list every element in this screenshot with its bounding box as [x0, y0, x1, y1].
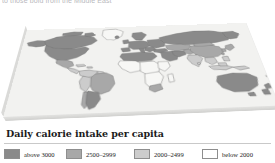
map-stage: [0, 8, 275, 126]
map-legend: above 3000 2500–2999 2000–2499 below 200…: [4, 147, 275, 161]
legend-label-2000-2499: 2000–2499: [154, 151, 184, 158]
legend-swatch-2500-2999: [66, 149, 82, 159]
legend-item-below-2000: below 2000: [202, 147, 266, 161]
choropleth-world-map: [3, 23, 275, 117]
region-borneo: [218, 62, 228, 66]
legend-swatch-below-2000: [202, 149, 218, 159]
page-bleed-text: to those bold from the Middle East: [2, 0, 152, 5]
legend-swatch-2000-2499: [134, 149, 150, 159]
map-face: [3, 23, 275, 117]
legend-label-2500-2999: 2500–2999: [86, 151, 116, 158]
legend-swatch-above-3000: [4, 149, 20, 159]
region-hispaniola: [87, 67, 93, 69]
island-iceland: [115, 36, 119, 39]
legend-item-above-3000: above 3000: [4, 147, 66, 161]
figure-caption: Daily calorie intake per capita above 30…: [0, 127, 275, 163]
region-korea: [221, 49, 226, 52]
world-map-figure: to those bold from the Middle East: [0, 0, 275, 163]
legend-item-2000-2499: 2000–2499: [134, 147, 202, 161]
legend-label-above-3000: above 3000: [24, 151, 55, 158]
legend-item-2500-2999: 2500–2999: [66, 147, 134, 161]
island-sri-lanka: [197, 62, 201, 65]
legend-title: Daily calorie intake per capita: [6, 128, 164, 139]
legend-divider: [4, 143, 271, 144]
region-uk-ireland: [123, 40, 130, 44]
map-slab: [3, 23, 275, 117]
legend-label-below-2000: below 2000: [222, 151, 253, 158]
page-bleed-label: to those bold from the Middle East: [2, 0, 152, 4]
